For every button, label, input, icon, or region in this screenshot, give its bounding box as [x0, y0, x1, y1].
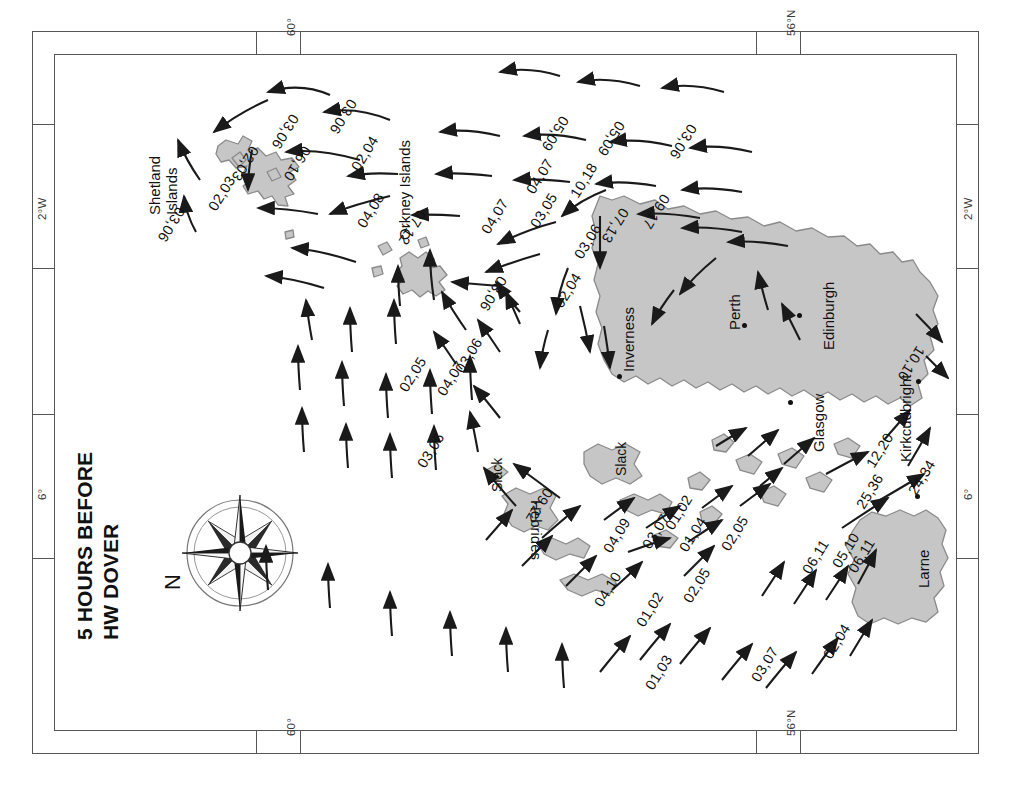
place-label-kirkcudbright: Kirkcudbright — [897, 374, 914, 462]
city-dot — [797, 313, 802, 318]
place-label-glasgow: Glasgow — [810, 394, 827, 452]
place-label-edinburgh: Edinburgh — [820, 282, 837, 350]
place-label-inverness: Inverness — [620, 307, 637, 372]
place-label-perth: Perth — [726, 294, 743, 330]
place-label-larne: Larne — [915, 550, 932, 588]
slack-label: Slack — [613, 442, 629, 476]
city-dot — [916, 379, 921, 384]
city-dot — [788, 400, 793, 405]
city-dot — [617, 374, 622, 379]
slack-label: Slack — [489, 458, 505, 492]
city-dot — [742, 323, 747, 328]
landmass-layer — [0, 0, 1011, 786]
